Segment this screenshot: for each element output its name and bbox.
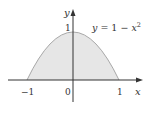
y-axis-arrow-icon [71, 9, 76, 16]
x-tick-1: 1 [117, 87, 123, 97]
x-tick-neg1: −1 [21, 87, 34, 97]
x-axis-arrow-icon [136, 78, 143, 83]
y-axis-label: y [63, 7, 70, 18]
x-tick-0: 0 [65, 87, 71, 97]
x-axis-label: x [135, 86, 141, 97]
parabola-region-chart: y 1 y = 1 − x2 −1 0 1 x [0, 0, 145, 125]
function-label: y = 1 − x2 [91, 21, 141, 33]
y-tick-1: 1 [65, 23, 71, 33]
